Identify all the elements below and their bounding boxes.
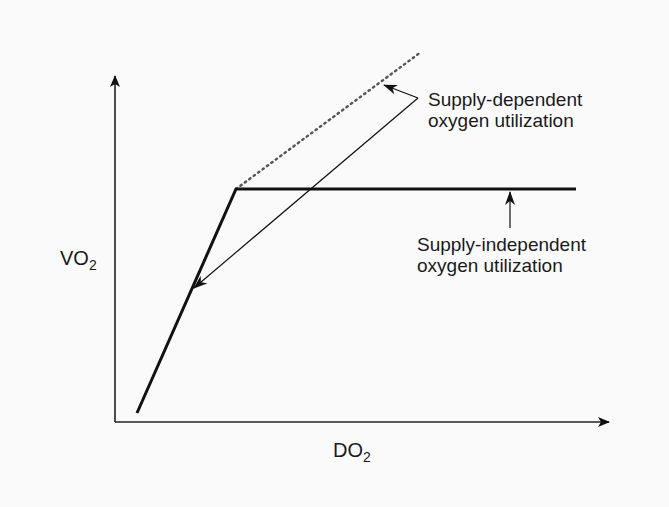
supply-dependent-line2: oxygen utilization xyxy=(428,110,582,131)
dotted-extrapolation-line xyxy=(236,52,421,189)
diagram-canvas: VO2 DO2 Supply-dependent oxygen utilizat… xyxy=(0,0,669,507)
supply-dependent-line1: Supply-dependent xyxy=(428,89,582,110)
x-axis-label: DO2 xyxy=(333,440,371,468)
supply-independent-label: Supply-independent oxygen utilization xyxy=(417,234,586,276)
y-axis-label: VO2 xyxy=(60,248,97,276)
supply-dependent-label: Supply-dependent oxygen utilization xyxy=(428,89,582,131)
supply-independent-line1: Supply-independent xyxy=(417,234,586,255)
supply-dependent-pointer xyxy=(194,85,418,288)
supply-independent-line2: oxygen utilization xyxy=(417,255,586,276)
